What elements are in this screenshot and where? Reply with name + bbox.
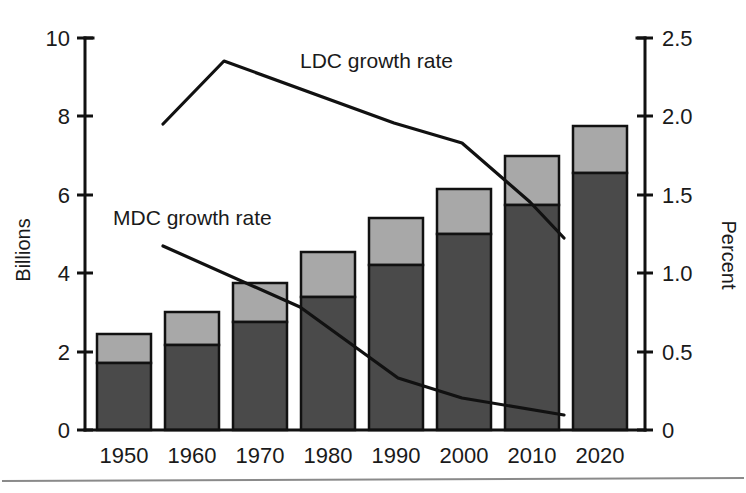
bar-segment-lower-1980 bbox=[301, 297, 355, 430]
x-tick-label-1970: 1970 bbox=[236, 443, 285, 468]
bar-segment-lower-2010 bbox=[505, 205, 559, 430]
bar-1950 bbox=[97, 334, 151, 430]
bar-1960 bbox=[165, 312, 219, 430]
x-tick-label-1950: 1950 bbox=[100, 443, 149, 468]
bar-segment-upper-1980 bbox=[301, 252, 355, 297]
x-tick-label-2000: 2000 bbox=[440, 443, 489, 468]
x-tick-label-1960: 1960 bbox=[168, 443, 217, 468]
bar-segment-upper-2020 bbox=[573, 126, 627, 173]
bar-segment-lower-1960 bbox=[165, 345, 219, 430]
population-growth-chart: 10 8 6 4 2 0 Billions 2.5 2.0 1.5 1.0 0.… bbox=[0, 0, 746, 493]
bar-segment-upper-1950 bbox=[97, 334, 151, 363]
left-tick-label-2: 2 bbox=[58, 340, 70, 365]
right-tick-label-0: 0 bbox=[662, 418, 674, 443]
bar-1970 bbox=[233, 283, 287, 430]
bar-2010 bbox=[505, 156, 559, 430]
bar-segment-lower-2020 bbox=[573, 173, 627, 430]
x-tick-label-1990: 1990 bbox=[372, 443, 421, 468]
bar-2020 bbox=[573, 126, 627, 430]
chart-figure: 10 8 6 4 2 0 Billions 2.5 2.0 1.5 1.0 0.… bbox=[0, 0, 746, 493]
left-tick-label-6: 6 bbox=[58, 183, 70, 208]
right-tick-label-1p0: 1.0 bbox=[662, 261, 693, 286]
x-tick-label-1980: 1980 bbox=[304, 443, 353, 468]
ldc-growth-rate-label: LDC growth rate bbox=[300, 49, 453, 72]
right-tick-label-2p5: 2.5 bbox=[662, 26, 693, 51]
bar-segment-upper-2000 bbox=[437, 189, 491, 234]
x-tick-label-2010: 2010 bbox=[508, 443, 557, 468]
x-tick-label-2020: 2020 bbox=[576, 443, 625, 468]
left-tick-label-8: 8 bbox=[58, 104, 70, 129]
right-tick-label-2p0: 2.0 bbox=[662, 104, 693, 129]
bar-segment-lower-1950 bbox=[97, 363, 151, 430]
bar-segment-upper-1960 bbox=[165, 312, 219, 345]
bar-segment-upper-1990 bbox=[369, 218, 423, 265]
mdc-growth-rate-label: MDC growth rate bbox=[113, 206, 272, 229]
bar-segment-lower-1990 bbox=[369, 265, 423, 430]
right-axis-title: Percent bbox=[718, 221, 740, 290]
left-tick-label-4: 4 bbox=[58, 261, 70, 286]
left-axis-title: Billions bbox=[12, 218, 34, 281]
right-tick-label-1p5: 1.5 bbox=[662, 183, 693, 208]
left-tick-label-0: 0 bbox=[58, 418, 70, 443]
right-tick-label-0p5: 0.5 bbox=[662, 340, 693, 365]
bar-segment-lower-1970 bbox=[233, 322, 287, 430]
bar-1990 bbox=[369, 218, 423, 430]
left-tick-label-10: 10 bbox=[46, 26, 70, 51]
bar-segment-upper-2010 bbox=[505, 156, 559, 205]
